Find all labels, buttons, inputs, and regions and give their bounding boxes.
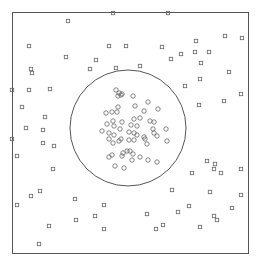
square-marker xyxy=(199,61,202,64)
circle-marker xyxy=(127,130,131,134)
circle-marker xyxy=(120,92,124,96)
circle-marker xyxy=(155,134,159,138)
circle-marker xyxy=(133,104,137,108)
circle-marker xyxy=(100,129,104,133)
square-marker xyxy=(52,144,55,147)
square-marker xyxy=(154,227,157,230)
square-marker xyxy=(88,67,91,70)
square-marker xyxy=(48,87,51,90)
circle-marker xyxy=(111,119,115,123)
square-marker xyxy=(198,77,201,80)
square-marker xyxy=(169,57,172,60)
square-marker xyxy=(239,92,242,95)
boundary-circle xyxy=(70,70,186,186)
square-marker xyxy=(212,214,215,217)
square-marker xyxy=(213,162,216,165)
square-marker xyxy=(38,189,41,192)
square-marker xyxy=(207,50,210,53)
square-marker xyxy=(138,64,141,67)
square-marker xyxy=(107,44,110,47)
circle-marker xyxy=(127,138,131,142)
outside-square-markers xyxy=(10,11,243,245)
square-marker xyxy=(219,171,222,174)
square-marker xyxy=(239,193,242,196)
circle-marker xyxy=(118,127,122,131)
square-marker xyxy=(94,58,97,61)
circle-marker xyxy=(138,116,142,120)
square-marker xyxy=(197,103,200,106)
circle-marker xyxy=(116,105,120,109)
square-marker xyxy=(114,66,117,69)
square-marker xyxy=(41,128,44,131)
circle-marker xyxy=(142,109,146,113)
circle-marker xyxy=(138,155,142,159)
square-marker xyxy=(102,203,105,206)
circle-marker xyxy=(122,166,126,170)
square-marker xyxy=(15,154,18,157)
circle-marker xyxy=(104,111,108,115)
square-marker xyxy=(176,210,179,213)
square-marker xyxy=(24,126,27,129)
square-marker xyxy=(20,105,23,108)
square-marker xyxy=(73,197,76,200)
circle-marker xyxy=(111,141,115,145)
square-marker xyxy=(27,88,30,91)
circle-marker xyxy=(135,124,139,128)
circle-marker xyxy=(156,107,160,111)
square-marker xyxy=(179,52,182,55)
square-marker xyxy=(37,242,40,245)
square-marker xyxy=(47,224,50,227)
square-marker xyxy=(198,225,201,228)
square-marker xyxy=(215,218,218,221)
square-marker xyxy=(15,203,18,206)
square-marker xyxy=(29,67,32,70)
square-marker xyxy=(124,44,127,47)
circle-marker xyxy=(115,110,119,114)
square-marker xyxy=(30,71,33,74)
square-marker xyxy=(29,194,32,197)
square-marker xyxy=(223,34,226,37)
circle-marker xyxy=(112,124,116,128)
square-marker xyxy=(227,70,230,73)
square-marker xyxy=(145,212,148,215)
circle-marker xyxy=(165,139,169,143)
circle-marker xyxy=(112,133,116,137)
square-marker xyxy=(170,188,173,191)
circle-marker xyxy=(129,123,133,127)
circle-marker xyxy=(145,142,149,146)
square-marker xyxy=(64,55,67,58)
inside-circle-markers xyxy=(100,88,169,170)
square-marker xyxy=(161,223,164,226)
scatter-diagram xyxy=(0,0,257,265)
circle-marker xyxy=(130,158,134,162)
circle-marker xyxy=(131,94,135,98)
square-marker xyxy=(27,44,30,47)
circle-marker xyxy=(110,110,114,114)
square-marker xyxy=(208,190,211,193)
circle-marker xyxy=(132,117,136,121)
circle-marker xyxy=(146,100,150,104)
circle-marker xyxy=(120,120,124,124)
square-marker xyxy=(205,159,208,162)
square-marker xyxy=(240,36,243,39)
square-marker xyxy=(66,19,69,22)
circle-marker xyxy=(146,158,150,162)
square-marker xyxy=(160,45,163,48)
square-marker xyxy=(239,167,242,170)
circle-marker xyxy=(107,131,111,135)
square-marker xyxy=(51,167,54,170)
square-marker xyxy=(41,141,44,144)
square-marker xyxy=(74,218,77,221)
circle-marker xyxy=(120,154,124,158)
square-marker xyxy=(194,39,197,42)
square-marker xyxy=(222,99,225,102)
square-marker xyxy=(230,206,233,209)
square-marker xyxy=(93,214,96,217)
square-marker xyxy=(102,227,105,230)
circle-marker xyxy=(113,164,117,168)
square-marker xyxy=(212,167,215,170)
square-marker xyxy=(187,204,190,207)
circle-marker xyxy=(164,127,168,131)
circle-marker xyxy=(152,120,156,124)
square-marker xyxy=(190,171,193,174)
